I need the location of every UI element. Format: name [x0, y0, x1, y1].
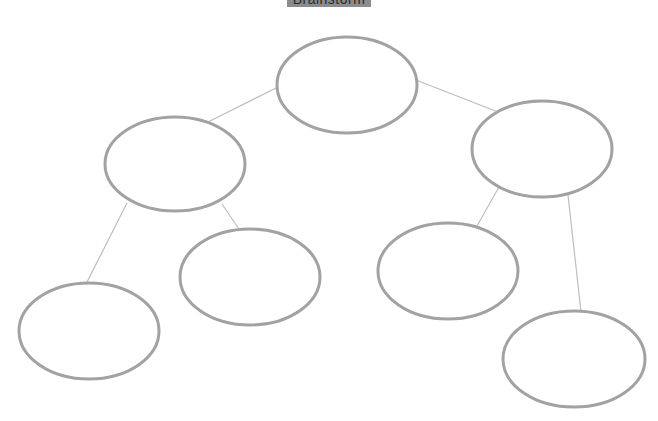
edge-root-right — [416, 80, 498, 112]
edge-left-left-right — [222, 204, 239, 229]
edge-right-right-left — [477, 187, 499, 226]
node-root[interactable] — [277, 37, 417, 133]
node-right-right[interactable] — [503, 311, 645, 407]
node-left-left-ellipse[interactable] — [19, 283, 159, 379]
node-left-left[interactable] — [19, 283, 159, 379]
node-right-left[interactable] — [378, 223, 518, 319]
tree-diagram — [0, 0, 658, 421]
node-left[interactable] — [105, 117, 245, 211]
node-right-right-ellipse[interactable] — [503, 311, 645, 407]
edge-root-left — [208, 87, 278, 122]
edge-left-left-left — [86, 203, 127, 284]
node-right-ellipse[interactable] — [472, 101, 612, 197]
node-left-right-ellipse[interactable] — [180, 229, 320, 325]
nodes — [19, 37, 645, 407]
node-right[interactable] — [472, 101, 612, 197]
node-left-right[interactable] — [180, 229, 320, 325]
node-right-left-ellipse[interactable] — [378, 223, 518, 319]
edge-right-right-right — [568, 195, 581, 312]
node-root-ellipse[interactable] — [277, 37, 417, 133]
node-left-ellipse[interactable] — [105, 117, 245, 211]
